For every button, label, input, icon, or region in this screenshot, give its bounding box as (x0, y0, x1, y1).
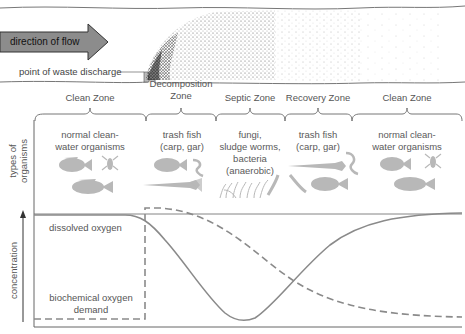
concentration-curves (0, 0, 465, 334)
bod-label-line2: demand (41, 304, 141, 315)
bod-label-line1: biochemical oxygen (41, 292, 141, 303)
dissolved-oxygen-label: dissolved oxygen (49, 222, 122, 233)
